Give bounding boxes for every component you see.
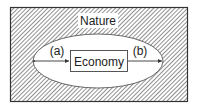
economy-box: Economy xyxy=(71,51,128,72)
nature-label: Nature xyxy=(80,14,116,28)
flow-label-a: (a) xyxy=(50,44,65,58)
economy-label: Economy xyxy=(74,55,124,69)
flow-label-b: (b) xyxy=(133,44,148,58)
nature-label-box: Nature xyxy=(78,13,118,28)
nature-economy-diagram: Nature (a) (b) Economy xyxy=(0,0,197,111)
flow-a-start-dot xyxy=(33,60,35,62)
